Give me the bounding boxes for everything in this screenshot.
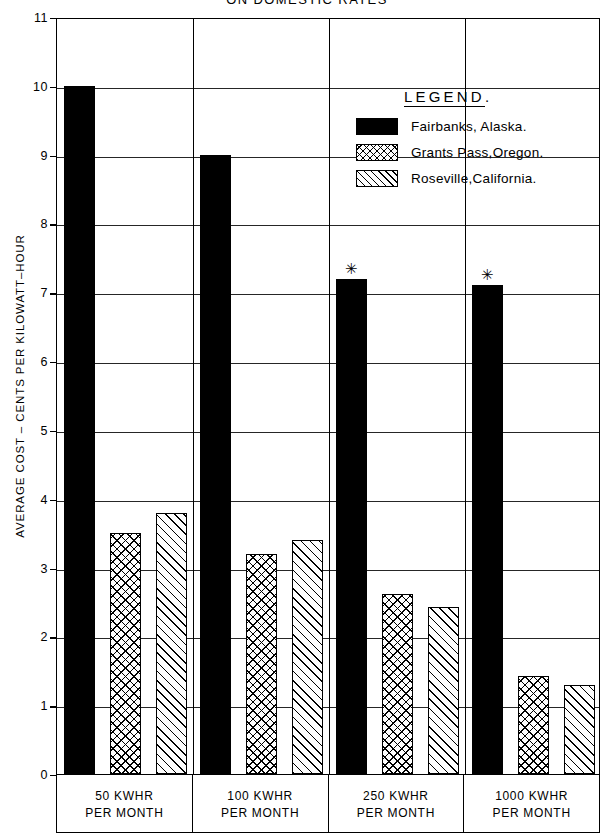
legend-label: Fairbanks, Alaska. — [411, 119, 527, 134]
y-tick-label: 1 — [16, 700, 48, 713]
x-axis-category-line1: 100 KWHR — [227, 789, 293, 803]
y-tick-label: 8 — [16, 218, 48, 231]
legend-title-suffix: . — [485, 88, 492, 105]
y-tick-label: 10 — [16, 81, 48, 94]
bar-annotation-asterisk: ✳ — [481, 267, 494, 282]
legend-label: Grants Pass,Oregon. — [411, 145, 544, 160]
x-axis-category: 1000 KWHRPER MONTH — [464, 775, 599, 832]
legend-title: LEGEND. — [356, 88, 586, 105]
legend-label: Roseville,California. — [411, 171, 537, 186]
bar-annotation-asterisk: ✳ — [345, 261, 358, 276]
legend-item: Fairbanks, Alaska. — [356, 115, 586, 137]
bar — [246, 554, 277, 774]
legend-item: Grants Pass,Oregon. — [356, 141, 586, 163]
bar — [110, 533, 141, 774]
bar — [382, 594, 413, 774]
y-tick-label: 4 — [16, 494, 48, 507]
bar — [292, 540, 323, 774]
bar — [472, 285, 503, 774]
bar — [428, 607, 459, 774]
y-tick-label: 2 — [16, 631, 48, 644]
legend-rows: Fairbanks, Alaska.Grants Pass,Oregon.Ros… — [356, 115, 586, 189]
bar — [564, 685, 595, 774]
x-axis-category-line1: 1000 KWHR — [495, 789, 568, 803]
x-axis-category-line1: 50 KWHR — [95, 789, 153, 803]
legend-swatch — [356, 170, 398, 187]
legend: LEGEND. Fairbanks, Alaska.Grants Pass,Or… — [356, 88, 586, 193]
y-tick-label: 9 — [16, 150, 48, 163]
legend-swatch — [356, 118, 398, 135]
y-tick-label: 11 — [16, 12, 48, 25]
y-tick-label: 0 — [16, 769, 48, 782]
gridline — [57, 363, 599, 364]
y-tick-label: 3 — [16, 563, 48, 576]
x-axis-categories: 50 KWHRPER MONTH100 KWHRPER MONTH250 KWH… — [56, 775, 600, 833]
x-axis-category-line2: PER MONTH — [357, 806, 435, 820]
x-axis-category: 100 KWHRPER MONTH — [193, 775, 329, 832]
bar — [518, 676, 549, 774]
gridline — [57, 501, 599, 502]
gridline — [57, 225, 599, 226]
x-axis-category-line2: PER MONTH — [492, 806, 570, 820]
y-tick-label: 6 — [16, 356, 48, 369]
x-axis-category-line1: 250 KWHR — [363, 789, 429, 803]
gridline — [57, 432, 599, 433]
y-tick-label: 5 — [16, 425, 48, 438]
x-axis-category-line2: PER MONTH — [221, 806, 299, 820]
x-axis-category: 50 KWHRPER MONTH — [57, 775, 193, 832]
legend-title-text: LEGEND — [404, 88, 485, 107]
bar — [200, 155, 231, 774]
x-axis-category-line2: PER MONTH — [85, 806, 163, 820]
group-separator — [193, 19, 194, 774]
group-separator — [329, 19, 330, 774]
bar — [64, 86, 95, 774]
y-tick-label: 7 — [16, 287, 48, 300]
legend-item: Roseville,California. — [356, 167, 586, 189]
x-axis-category: 250 KWHRPER MONTH — [329, 775, 465, 832]
bar — [156, 513, 187, 775]
bar — [336, 279, 367, 774]
gridline — [57, 294, 599, 295]
legend-swatch — [356, 144, 398, 161]
